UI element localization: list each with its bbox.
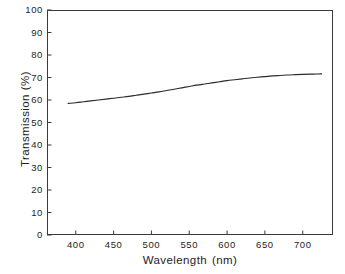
x-tick-label-400: 400 — [56, 239, 96, 250]
y-axis-title-unit: (%) — [19, 71, 31, 90]
chart-figure: 0102030405060708090100 40045050055060065… — [0, 0, 345, 274]
x-axis-title-text: Wavelength — [143, 254, 207, 266]
x-tick-label-700: 700 — [283, 239, 323, 250]
x-tick-label-650: 650 — [245, 239, 285, 250]
x-tick-label-550: 550 — [169, 239, 209, 250]
x-tick-label-500: 500 — [131, 239, 171, 250]
y-axis-title-text: Transmission — [19, 94, 31, 167]
plot-area-frame — [47, 10, 333, 235]
x-axis-tick-labels: 400450500550600650700 — [0, 239, 345, 253]
x-axis-title: Wavelength(nm) — [47, 254, 333, 266]
y-axis-title: Transmission(%) — [19, 4, 31, 234]
x-tick-label-600: 600 — [207, 239, 247, 250]
x-axis-title-unit: (nm) — [212, 254, 237, 266]
x-tick-label-450: 450 — [94, 239, 134, 250]
